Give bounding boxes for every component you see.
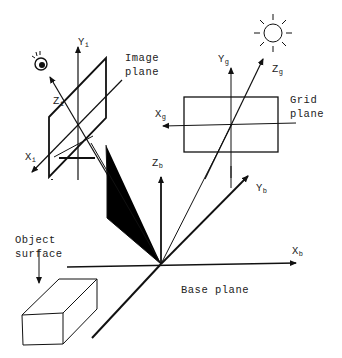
image-plane-label-2: plane: [125, 66, 159, 78]
grid-plane-label-2: plane: [290, 108, 324, 120]
axis-label-zb: Zb: [152, 157, 164, 170]
image-plane-label: Image: [125, 52, 159, 64]
grid-plane: [163, 59, 296, 179]
axis-label-zg: Zg: [272, 63, 284, 76]
base-plane-label: Base plane: [181, 284, 249, 296]
base-plane-axes: [67, 176, 296, 338]
diagram-canvas: Image plane Grid plane Object surface Ba…: [0, 0, 342, 358]
axis-label-yi: Yi: [78, 36, 90, 49]
axis-label-yg: Yg: [218, 53, 230, 66]
axis-label-xi: Xi: [25, 151, 37, 164]
axis-label-xb: Xb: [292, 245, 304, 258]
object-surface-label-2: surface: [15, 248, 63, 260]
camera-icon: [32, 51, 47, 70]
object-box: [22, 250, 97, 345]
coordinate-system-diagram: Image plane Grid plane Object surface Ba…: [0, 0, 342, 358]
axis-label-xg: Xg: [155, 108, 167, 121]
axis-label-yb: Yb: [256, 182, 268, 195]
axis-label-zi: Zi: [53, 95, 65, 108]
object-surface-label: Object: [15, 234, 56, 246]
grid-plane-label: Grid: [290, 94, 317, 106]
light-source-icon: [254, 14, 292, 52]
